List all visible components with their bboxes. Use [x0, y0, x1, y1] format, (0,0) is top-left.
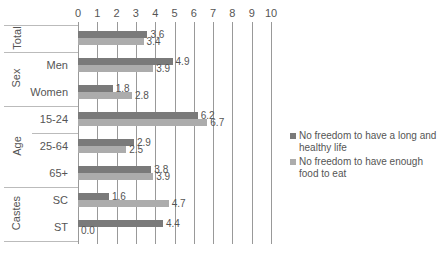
x-tick-label: 5: [171, 7, 177, 19]
row-label: 25-64: [8, 140, 68, 152]
bar-enough-food: [78, 65, 153, 72]
legend-swatch-icon: [290, 159, 296, 165]
x-tick-label: 3: [133, 7, 139, 19]
bar-long-healthy-life: [78, 31, 147, 38]
gridline: [97, 22, 98, 244]
gridline: [271, 22, 272, 244]
x-tick-label: 2: [114, 7, 120, 19]
row-label: Men: [8, 59, 68, 71]
group-divider: [4, 241, 78, 242]
row-label: Women: [8, 86, 68, 98]
bar-long-healthy-life: [78, 85, 113, 92]
bar-long-healthy-life: [78, 139, 134, 146]
gridline: [78, 22, 79, 244]
bar-enough-food: [78, 200, 169, 207]
row-label: ST: [8, 221, 68, 233]
gridline: [155, 22, 156, 244]
row-label: 65+: [8, 167, 68, 179]
group-label: Total: [10, 24, 22, 51]
value-label: 4.9: [176, 56, 190, 67]
value-label: 2.5: [129, 144, 143, 155]
row-label: 15-24: [8, 113, 68, 125]
gridline: [194, 22, 195, 244]
gridline: [252, 22, 253, 244]
bar-enough-food: [78, 146, 126, 153]
gridline: [117, 22, 118, 244]
value-label: 0.0: [81, 225, 95, 236]
value-label: 2.8: [135, 90, 149, 101]
gridline: [213, 22, 214, 244]
bar-enough-food: [78, 173, 153, 180]
bar-enough-food: [78, 92, 132, 99]
legend-label: No freedom to have enough food to eat: [299, 156, 440, 180]
bar-long-healthy-life: [78, 166, 151, 173]
value-label: 4.7: [172, 198, 186, 209]
gridline: [232, 22, 233, 244]
value-label: 6.7: [210, 117, 224, 128]
x-tick-label: 4: [152, 7, 158, 19]
bar-enough-food: [78, 38, 144, 45]
legend-item: No freedom to have enough food to eat: [290, 156, 440, 180]
value-label: 3.4: [147, 36, 161, 47]
x-tick-label: 10: [265, 7, 277, 19]
row-divider: [32, 187, 78, 188]
x-tick-label: 7: [210, 7, 216, 19]
value-label: 3.9: [156, 171, 170, 182]
x-tick-label: 1: [94, 7, 100, 19]
gridline: [136, 22, 137, 244]
row-label: SC: [8, 194, 68, 206]
x-tick-label: 9: [249, 7, 255, 19]
row-divider: [32, 106, 78, 107]
legend-swatch-icon: [290, 133, 296, 139]
x-tick-label: 6: [191, 7, 197, 19]
value-label: 3.9: [156, 63, 170, 74]
value-label: 4.4: [166, 218, 180, 229]
x-tick-label: 0: [75, 7, 81, 19]
bar-long-healthy-life: [78, 112, 198, 119]
row-divider: [32, 133, 78, 134]
bar-long-healthy-life: [78, 193, 109, 200]
legend-label: No freedom to have a long and healthy li…: [299, 130, 440, 154]
bar-enough-food: [78, 119, 207, 126]
x-tick-label: 8: [229, 7, 235, 19]
legend-item: No freedom to have a long and healthy li…: [290, 130, 440, 154]
row-divider: [32, 52, 78, 53]
